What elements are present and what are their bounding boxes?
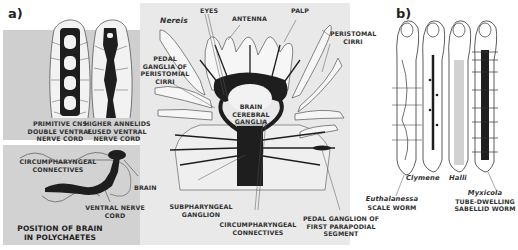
clymene-label: Clymene xyxy=(406,175,440,183)
clymene-drawing xyxy=(423,21,445,172)
pedal-ganglion-first-label: PEDAL GANGLION OF FIRST PARAPODIAL SEGME… xyxy=(300,215,382,238)
nereis-species-label: Nereis xyxy=(160,17,188,25)
panel-a-tag: a) xyxy=(8,6,23,21)
panel-b-tag: b) xyxy=(396,6,411,21)
circumpharyngeal-label: CIRCUMPHARYNGEAL CONNECTIVES xyxy=(218,221,298,236)
connectives-label: CIRCUMPHARYNGEAL CONNECTIVES xyxy=(16,158,100,173)
myxicola-label: Myxicola TUBE-DWELLING SABELLID WORM xyxy=(452,190,518,213)
myxicola-drawing xyxy=(472,21,498,172)
ventral-cord-label: VENTRAL NERVE CORD xyxy=(85,204,145,219)
peristomal-cirri-label: PERISTOMAL CIRRI xyxy=(330,30,376,45)
antenna-label: ANTENNA xyxy=(232,15,267,23)
primitive-cns-drawing xyxy=(50,20,90,118)
brain-label-left: BRAIN xyxy=(134,184,157,192)
subpharyngeal-label: SUBPHARYNGEAL GANGLION xyxy=(166,203,236,218)
position-of-brain-title: POSITION OF BRAIN IN POLYCHAETES xyxy=(16,224,104,242)
eyes-label: EYES xyxy=(200,7,218,15)
euthalanessa-drawing xyxy=(392,21,422,175)
euthalanessa-label: Euthalanessa SCALE WORM xyxy=(360,196,424,211)
higher-annelids-caption: HIGHER ANNELIDS FUSED VENTRAL NERVE CORD xyxy=(84,120,150,143)
pedal-ganglia-label: PEDAL GANGLIA OF PERISTOMIAL CIRRI xyxy=(134,55,196,85)
halli-drawing xyxy=(449,21,471,172)
fused-cord-drawing xyxy=(92,20,132,118)
halli-label: Halli xyxy=(449,175,467,183)
palp-label: PALP xyxy=(291,7,309,15)
brain-cerebral-ganglia-label: BRAIN CEREBRAL GANGLIA xyxy=(230,103,272,126)
